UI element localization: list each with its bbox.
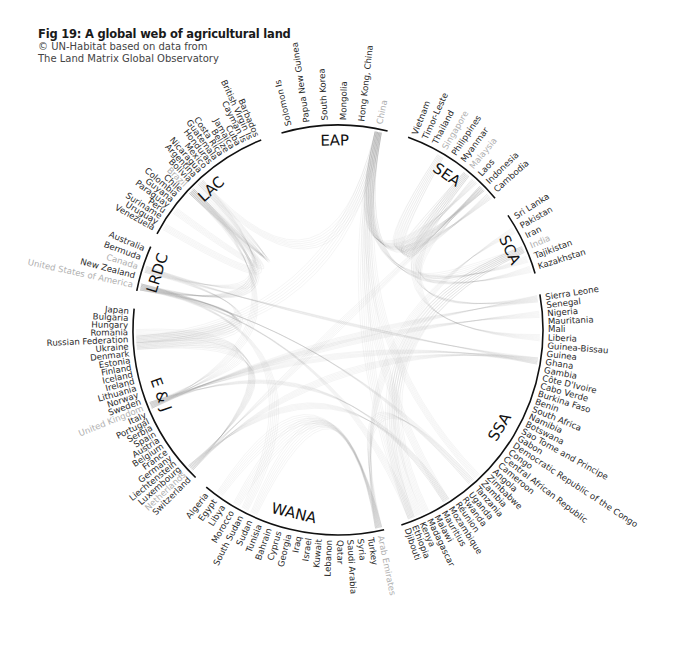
chord-link bbox=[150, 314, 539, 405]
chord-link bbox=[151, 316, 539, 407]
region-label: EAP bbox=[320, 131, 349, 149]
country-label: Qatar bbox=[335, 540, 345, 565]
country-label: Arab Emirates bbox=[376, 535, 398, 597]
country-label: Kuwait bbox=[311, 538, 324, 568]
chord-link bbox=[149, 296, 537, 403]
country-label: Mongolia bbox=[338, 81, 349, 120]
chord-diagram: Solomon IsPapua New GuineaSouth KoreaMon… bbox=[0, 0, 687, 649]
region-label: E & J bbox=[146, 375, 175, 414]
country-label: Solomon Is bbox=[272, 78, 293, 127]
region-label: WANA bbox=[270, 499, 319, 527]
country-label: Saudi Arabia bbox=[345, 539, 358, 594]
country-label: South Korea bbox=[317, 68, 330, 121]
country-label: Syria bbox=[356, 538, 368, 561]
country-label: Hong Kong, China bbox=[356, 44, 375, 121]
country-label: China bbox=[374, 99, 389, 125]
country-label: Papua New Guinea bbox=[290, 42, 312, 124]
country-label: Lebanon bbox=[322, 540, 333, 577]
chord-link bbox=[145, 271, 538, 363]
